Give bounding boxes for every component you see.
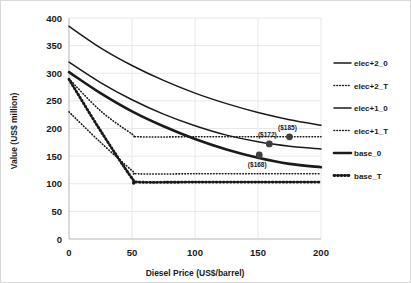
- data-point-marker-1: [266, 141, 273, 148]
- legend-label-elec+1_0: elec+1_0: [354, 104, 388, 113]
- x-axis-tick-labels: 050100150200: [66, 247, 329, 258]
- y-tick-50: 50: [51, 206, 62, 217]
- x-axis-title: Diesel Price (US$/barrel): [146, 268, 245, 278]
- legend: elec+2_0elec+2_Telec+1_0elec+1_Tbase_0ba…: [334, 59, 388, 181]
- x-tick-100: 100: [187, 247, 203, 258]
- x-tick-200: 200: [313, 247, 329, 258]
- annotation-172: ($172): [258, 131, 277, 139]
- chart-container: 050100150200250300350400 050100150200 ($…: [0, 0, 411, 283]
- x-tick-150: 150: [250, 247, 266, 258]
- legend-label-elec+2_T: elec+2_T: [354, 82, 388, 91]
- y-tick-200: 200: [46, 123, 62, 134]
- y-tick-150: 150: [46, 151, 62, 162]
- y-axis-tick-labels: 050100150200250300350400: [46, 13, 62, 245]
- legend-label-base_T: base_T: [354, 172, 382, 181]
- y-tick-250: 250: [46, 95, 62, 106]
- legend-label-elec+2_0: elec+2_0: [354, 59, 388, 68]
- line-chart: 050100150200250300350400 050100150200 ($…: [1, 1, 411, 283]
- annotation-168: ($168): [248, 161, 267, 169]
- data-point-marker-2: [256, 152, 263, 159]
- y-axis-title: Value (US$ million): [9, 93, 19, 170]
- legend-label-base_0: base_0: [354, 149, 382, 158]
- y-tick-100: 100: [46, 178, 62, 189]
- y-tick-350: 350: [46, 40, 62, 51]
- y-tick-400: 400: [46, 13, 62, 24]
- data-point-marker-0: [286, 133, 293, 140]
- y-tick-300: 300: [46, 68, 62, 79]
- y-tick-0: 0: [57, 234, 62, 245]
- annotation-185: ($185): [278, 124, 297, 132]
- x-tick-50: 50: [127, 247, 138, 258]
- x-tick-0: 0: [66, 247, 71, 258]
- legend-label-elec+1_T: elec+1_T: [354, 127, 388, 136]
